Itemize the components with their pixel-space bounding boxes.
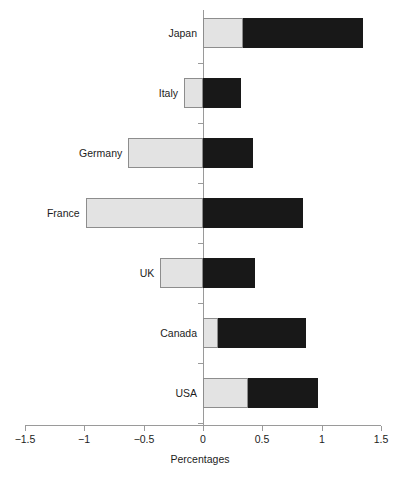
x-axis-title: Percentages — [0, 453, 400, 465]
y-axis-tick — [198, 243, 203, 244]
bar-segment-light — [128, 138, 203, 168]
bar-segment-light — [160, 258, 203, 288]
x-axis-tick-label: 0.5 — [255, 433, 270, 445]
x-axis-tick-label: 1.5 — [374, 433, 389, 445]
bar-segment-light — [203, 378, 248, 408]
horizontal-bar-chart: JapanItalyGermanyFranceUKCanadaUSA−1.5−1… — [0, 0, 400, 481]
bar-segment-light — [184, 78, 203, 108]
x-axis-tick-label: −1.5 — [15, 433, 36, 445]
bar-segment-dark — [203, 138, 253, 168]
y-axis-tick — [198, 303, 203, 304]
x-axis-tick-label: −1 — [78, 433, 90, 445]
x-axis-tick — [262, 426, 263, 431]
bar-segment-light — [203, 18, 243, 48]
category-label-usa: USA — [0, 387, 197, 399]
x-axis-tick — [84, 426, 85, 431]
category-label-france: France — [0, 207, 80, 219]
category-label-italy: Italy — [0, 87, 178, 99]
bar-segment-dark — [248, 378, 318, 408]
category-label-germany: Germany — [0, 147, 122, 159]
x-axis-tick — [25, 426, 26, 431]
y-axis-tick — [198, 63, 203, 64]
bar-segment-light — [86, 198, 203, 228]
category-label-uk: UK — [0, 267, 154, 279]
bar-segment-dark — [203, 258, 255, 288]
x-axis-tick-label: −0.5 — [134, 433, 155, 445]
category-label-japan: Japan — [0, 27, 197, 39]
x-axis-tick — [203, 426, 204, 431]
bar-segment-dark — [203, 198, 303, 228]
bar-segment-dark — [218, 318, 306, 348]
y-axis-tick — [198, 183, 203, 184]
x-axis-tick-label: 1 — [319, 433, 325, 445]
bar-segment-light — [203, 318, 218, 348]
x-axis-tick — [322, 426, 323, 431]
x-axis-tick — [381, 426, 382, 431]
x-axis-tick-label: 0 — [200, 433, 206, 445]
x-axis-tick — [144, 426, 145, 431]
category-label-canada: Canada — [0, 327, 197, 339]
y-axis-tick — [198, 423, 203, 424]
y-axis-tick — [198, 363, 203, 364]
y-axis-tick — [198, 123, 203, 124]
plot-area: JapanItalyGermanyFranceUKCanadaUSA−1.5−1… — [0, 0, 400, 481]
bar-segment-dark — [243, 18, 363, 48]
bar-segment-dark — [203, 78, 241, 108]
